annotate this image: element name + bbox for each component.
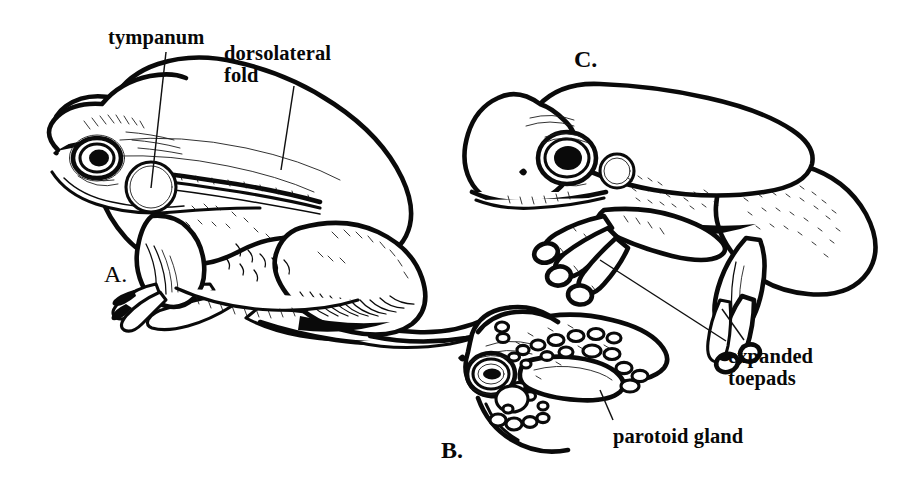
panel-letter-b: B. (441, 438, 463, 462)
frog-a-illustration (49, 57, 519, 347)
frog-c-foreleg (532, 209, 725, 306)
frog-c-eye (538, 132, 596, 186)
panel-letter-c: C. (574, 47, 597, 71)
figure-root: tympanum dorsolateral fold expanded toep… (0, 0, 908, 499)
label-expanded-toepads: expanded toepads (728, 345, 813, 389)
frog-c-tympanum (600, 154, 634, 188)
label-tympanum: tympanum (108, 26, 204, 48)
label-parotoid-gland: parotoid gland (613, 425, 743, 447)
figure-illustration (0, 0, 908, 499)
panel-letter-a: A. (104, 262, 127, 286)
label-dorsolateral-fold: dorsolateral fold (224, 42, 331, 86)
